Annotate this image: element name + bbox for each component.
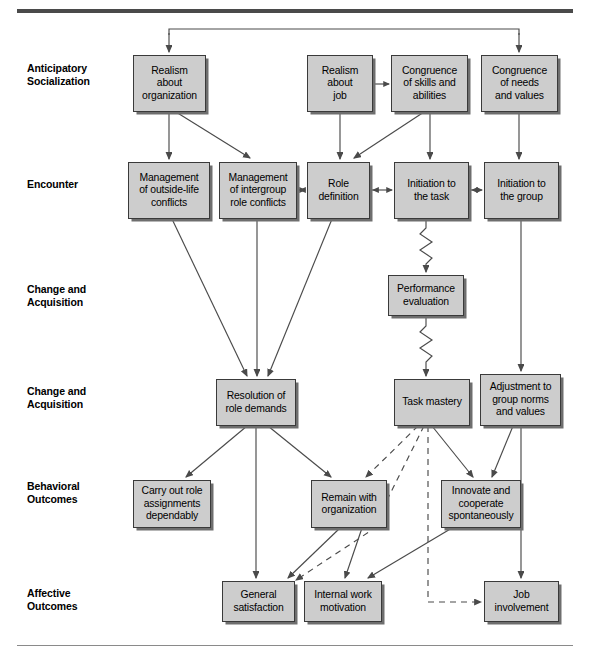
- node-initiation-to-the-task[interactable]: Initiation to the task: [394, 162, 469, 219]
- top-bracket: [169, 29, 519, 35]
- node-management-of-outside-life-conflicts[interactable]: Management of outside-life conflicts: [128, 162, 210, 219]
- zigzag-performance-to-taskmastery: [420, 316, 432, 376]
- node-performance-evaluation[interactable]: Performance evaluation: [388, 275, 464, 316]
- node-initiation-to-the-group[interactable]: Initiation to the group: [484, 162, 559, 219]
- arrow-resolution-to-remain: [268, 426, 331, 477]
- node-task-mastery[interactable]: Task mastery: [394, 379, 470, 426]
- node-congruence-of-skills-and-abilities[interactable]: Congruence of skills and abilities: [391, 55, 468, 112]
- stage-label-change-and-acquisition-1: Change and Acquisition: [27, 283, 86, 309]
- figure-canvas: Anticipatory SocializationEncounterChang…: [0, 0, 589, 658]
- node-realism-about-job[interactable]: Realism about job: [307, 55, 373, 112]
- node-adjustment-to-group-norms-and-values[interactable]: Adjustment to group norms and values: [480, 374, 561, 426]
- stage-label-change-and-acquisition-2: Change and Acquisition: [27, 385, 86, 411]
- arrow-resolution-to-carryout: [186, 426, 247, 477]
- node-congruence-of-needs-and-values[interactable]: Congruence of needs and values: [481, 55, 558, 112]
- arrow-remain-to-general-satisfaction: [288, 528, 340, 578]
- node-internal-work-motivation[interactable]: Internal work motivation: [304, 581, 382, 622]
- arrow-roledef-to-resolution: [268, 219, 332, 376]
- node-innovate-and-cooperate-spontaneously[interactable]: Innovate and cooperate spontaneously: [441, 480, 521, 528]
- arrow-adjustment-to-innovate: [492, 426, 513, 477]
- arrow-realismorg-to-intergroup: [176, 112, 250, 158]
- zigzag-inittask-to-performance: [420, 219, 432, 272]
- arrow-outsidelife-to-resolution: [172, 219, 247, 376]
- dashed-taskmastery-to-remain: [366, 426, 418, 477]
- node-role-definition[interactable]: Role definition: [307, 162, 370, 219]
- stage-label-affective-outcomes: Affective Outcomes: [27, 587, 78, 613]
- stage-label-encounter: Encounter: [27, 178, 78, 191]
- arrow-taskmastery-to-innovate: [432, 426, 473, 477]
- node-carry-out-role-assignments-dependably[interactable]: Carry out role assignments dependably: [133, 480, 211, 528]
- stage-label-behavioral-outcomes: Behavioral Outcomes: [27, 480, 80, 506]
- arrow-innovate-to-internalwork: [368, 528, 452, 578]
- node-job-involvement[interactable]: Job involvement: [484, 581, 559, 622]
- node-management-of-intergroup-role-conflicts[interactable]: Management of intergroup role conflicts: [219, 162, 297, 219]
- node-remain-with-organization[interactable]: Remain with organization: [311, 480, 387, 528]
- node-realism-about-organization[interactable]: Realism about organization: [133, 55, 206, 112]
- arrow-remain-to-internalwork: [345, 528, 362, 578]
- stage-label-anticipatory-socialization: Anticipatory Socialization: [27, 62, 90, 88]
- node-general-satisfaction[interactable]: General satisfaction: [222, 581, 295, 622]
- node-resolution-of-role-demands[interactable]: Resolution of role demands: [216, 379, 296, 426]
- arrow-congruenceskills-to-roledef: [354, 112, 424, 158]
